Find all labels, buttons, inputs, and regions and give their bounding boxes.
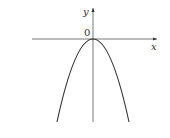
origin-label: 0 [84,27,90,38]
graph-canvas: y x 0 [0,0,170,138]
y-axis-label: y [82,6,89,17]
x-axis-label: x [151,41,157,52]
